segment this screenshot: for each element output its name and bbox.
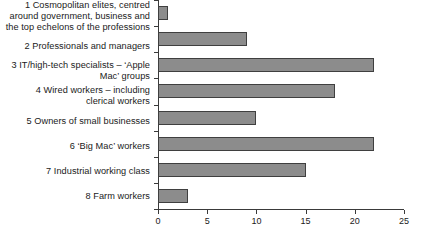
category-label-1: 1 Cosmopolitan elites, centred around go… <box>0 0 155 34</box>
bar-row <box>158 0 404 26</box>
bar-row <box>158 105 404 131</box>
x-axis-tick-label: 20 <box>350 216 360 226</box>
bar-row <box>158 52 404 78</box>
category-label-4: 4 Wired workers – including clerical wor… <box>0 84 155 109</box>
bar-row <box>158 26 404 52</box>
bar-row <box>158 183 404 209</box>
x-axis-tick-label: 0 <box>155 216 160 226</box>
x-axis-tick <box>158 210 159 214</box>
plot-area: 0510152025 <box>158 0 404 209</box>
x-axis-tick <box>306 210 307 214</box>
bar <box>158 137 374 151</box>
x-axis-tick-label: 10 <box>251 216 261 226</box>
bar <box>158 6 168 20</box>
bar <box>158 32 247 46</box>
bar <box>158 84 335 98</box>
bar-row <box>158 157 404 183</box>
category-label-5: 5 Owners of small businesses <box>0 109 155 134</box>
x-axis-tick <box>355 210 356 214</box>
x-axis-tick-label: 5 <box>205 216 210 226</box>
bar <box>158 58 374 72</box>
bar-row <box>158 131 404 157</box>
bar <box>158 189 188 203</box>
x-axis-tick <box>207 210 208 214</box>
category-label-8: 8 Farm workers <box>0 184 155 209</box>
x-axis-tick <box>404 210 405 214</box>
x-axis-tick-label: 15 <box>301 216 311 226</box>
category-label-3: 3 IT/high-tech specialists – ‘Apple Mac’… <box>0 59 155 84</box>
bar-row <box>158 78 404 104</box>
category-label-6: 6 ‘Big Mac’ workers <box>0 134 155 159</box>
bar <box>158 163 306 177</box>
x-axis-tick <box>256 210 257 214</box>
horizontal-bar-chart: 1 Cosmopolitan elites, centred around go… <box>0 0 421 235</box>
category-label-2: 2 Professionals and managers <box>0 34 155 59</box>
x-axis-tick-label: 25 <box>399 216 409 226</box>
bar <box>158 111 256 125</box>
x-axis-line <box>158 209 404 210</box>
category-axis-labels: 1 Cosmopolitan elites, centred around go… <box>0 0 155 209</box>
category-label-7: 7 Industrial working class <box>0 159 155 184</box>
